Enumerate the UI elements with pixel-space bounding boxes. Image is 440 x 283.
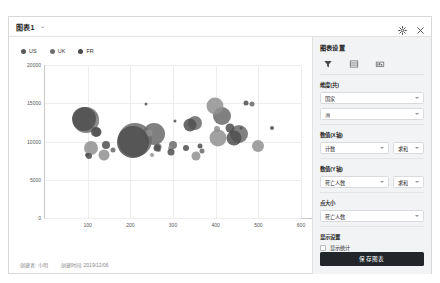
display-settings-label: 显示设置: [320, 233, 424, 241]
legend-item-uk[interactable]: UK: [50, 48, 66, 54]
divider: [320, 124, 424, 125]
bubble-point[interactable]: [168, 149, 175, 156]
style-tab[interactable]: [374, 58, 386, 69]
y-axis-field-select[interactable]: 死亡人数: [320, 176, 389, 188]
filter-tab[interactable]: [322, 58, 334, 69]
bubble-point[interactable]: [240, 127, 243, 130]
dimension-select-1-value: 国家: [325, 95, 335, 102]
bubble-point[interactable]: [244, 101, 249, 106]
chevron-down-icon: [380, 147, 384, 149]
bubble-point[interactable]: [192, 152, 201, 161]
bubble-point[interactable]: [249, 102, 254, 107]
save-chart-button[interactable]: 保存图表: [320, 252, 424, 266]
chevron-down-icon: [415, 97, 419, 99]
divider: [320, 158, 424, 159]
close-icon[interactable]: [416, 21, 425, 30]
bubble-point[interactable]: [150, 153, 154, 157]
chevron-down-icon: [415, 113, 419, 115]
gear-icon[interactable]: [398, 21, 407, 30]
x-axis-tick-label: 500: [254, 222, 262, 228]
bubble-point[interactable]: [252, 140, 264, 152]
bubble-point[interactable]: [183, 145, 189, 151]
bubble-point[interactable]: [270, 126, 274, 130]
y-axis-field-value: 死亡人数: [325, 179, 345, 186]
y-axis-aggregate-select[interactable]: 求和: [393, 176, 424, 188]
legend-color-dot: [21, 49, 26, 54]
legend-label: UK: [58, 48, 66, 54]
bubble-point[interactable]: [184, 118, 197, 131]
titlebar-actions: [398, 21, 425, 30]
bubble-point[interactable]: [226, 130, 241, 145]
show-stats-label: 显示统计: [330, 244, 350, 251]
table-icon: [349, 59, 359, 69]
x-axis-aggregate-select[interactable]: 求和: [393, 142, 424, 154]
point-size-value: 死亡人数: [325, 213, 345, 220]
x-axis-field-value: 计数: [325, 145, 335, 152]
app-root: 图表1 ⌄: [0, 0, 440, 283]
chevron-down-icon: [415, 147, 419, 149]
gridline-horizontal: [45, 218, 301, 219]
x-axis-tick-label: 200: [126, 222, 134, 228]
bubble-point[interactable]: [85, 153, 89, 157]
bubble-point[interactable]: [173, 119, 176, 122]
legend-label: US: [29, 48, 37, 54]
bubble-point[interactable]: [117, 126, 149, 158]
x-axis-field-select[interactable]: 计数: [320, 142, 389, 154]
chevron-down-icon: [380, 181, 384, 183]
bubble-point[interactable]: [209, 130, 226, 147]
legend-color-dot: [50, 49, 55, 54]
y-axis-tick-label: 15000: [27, 100, 41, 106]
y-axis-tick-label: 20000: [27, 62, 41, 68]
chevron-down-icon: [415, 215, 419, 217]
bubble-point[interactable]: [198, 144, 203, 149]
bubble-point[interactable]: [206, 97, 223, 114]
title-bar: 图表1 ⌄: [9, 17, 431, 37]
bubble-point[interactable]: [91, 127, 101, 137]
bubble-point[interactable]: [144, 103, 147, 106]
legend-label: FR: [86, 48, 93, 54]
bubble-point[interactable]: [98, 150, 109, 161]
chevron-down-icon: [415, 181, 419, 183]
title-dropdown-caret-icon[interactable]: ⌄: [40, 22, 45, 29]
y-axis-tick-label: 10000: [27, 139, 41, 145]
y-axis-tick-label: 0: [38, 215, 41, 221]
legend-color-dot: [78, 49, 83, 54]
footer-author: 创建者: 小明: [20, 261, 48, 268]
point-size-select[interactable]: 死亡人数: [320, 210, 424, 222]
x-axis-tick-label: 400: [211, 222, 219, 228]
bubble-point[interactable]: [102, 141, 110, 149]
chart-window: 图表1 ⌄: [8, 16, 432, 274]
funnel-icon: [323, 59, 333, 69]
dimension-select-2[interactable]: 洲: [320, 108, 424, 120]
dimension-label: 维度(共): [320, 81, 424, 89]
y-axis-label: 数值(Y轴): [320, 165, 424, 173]
dimension-select-1[interactable]: 国家: [320, 92, 424, 104]
y-axis-aggregate-value: 求和: [398, 179, 408, 186]
table-tab[interactable]: [348, 58, 360, 69]
legend-item-us[interactable]: US: [21, 48, 37, 54]
x-axis-tick-label: 300: [169, 222, 177, 228]
chart-settings-panel: 图表设置: [312, 37, 431, 274]
divider: [320, 226, 424, 227]
x-axis-tick-label: 600: [297, 222, 305, 228]
divider: [320, 192, 424, 193]
bubble-point[interactable]: [111, 147, 116, 152]
x-axis-aggregate-value: 求和: [398, 145, 408, 152]
y-axis-tick-label: 5000: [30, 177, 41, 183]
legend-item-fr[interactable]: FR: [78, 48, 93, 54]
plot-area: 05000100001500020000100200300400500600: [45, 65, 301, 218]
x-axis-tick-label: 100: [83, 222, 91, 228]
x-axis-label: 数值(X轴): [320, 131, 424, 139]
panel-title: 图表设置: [320, 43, 424, 52]
bubble-point[interactable]: [153, 145, 160, 152]
gridline-vertical: [301, 65, 302, 218]
x-axis-row: 计数 求和: [320, 142, 424, 154]
bubble-point[interactable]: [214, 126, 220, 132]
chart-legend: USUKFR: [21, 48, 94, 54]
page-title: 图表1: [16, 22, 35, 32]
show-stats-checkbox[interactable]: [320, 245, 326, 251]
show-stats-row[interactable]: 显示统计: [320, 244, 424, 251]
dimension-select-2-value: 洲: [325, 111, 330, 118]
chart-style-icon: [375, 59, 385, 69]
chart-footer: 创建者: 小明 创建时间: 2019/12/06: [9, 255, 314, 273]
